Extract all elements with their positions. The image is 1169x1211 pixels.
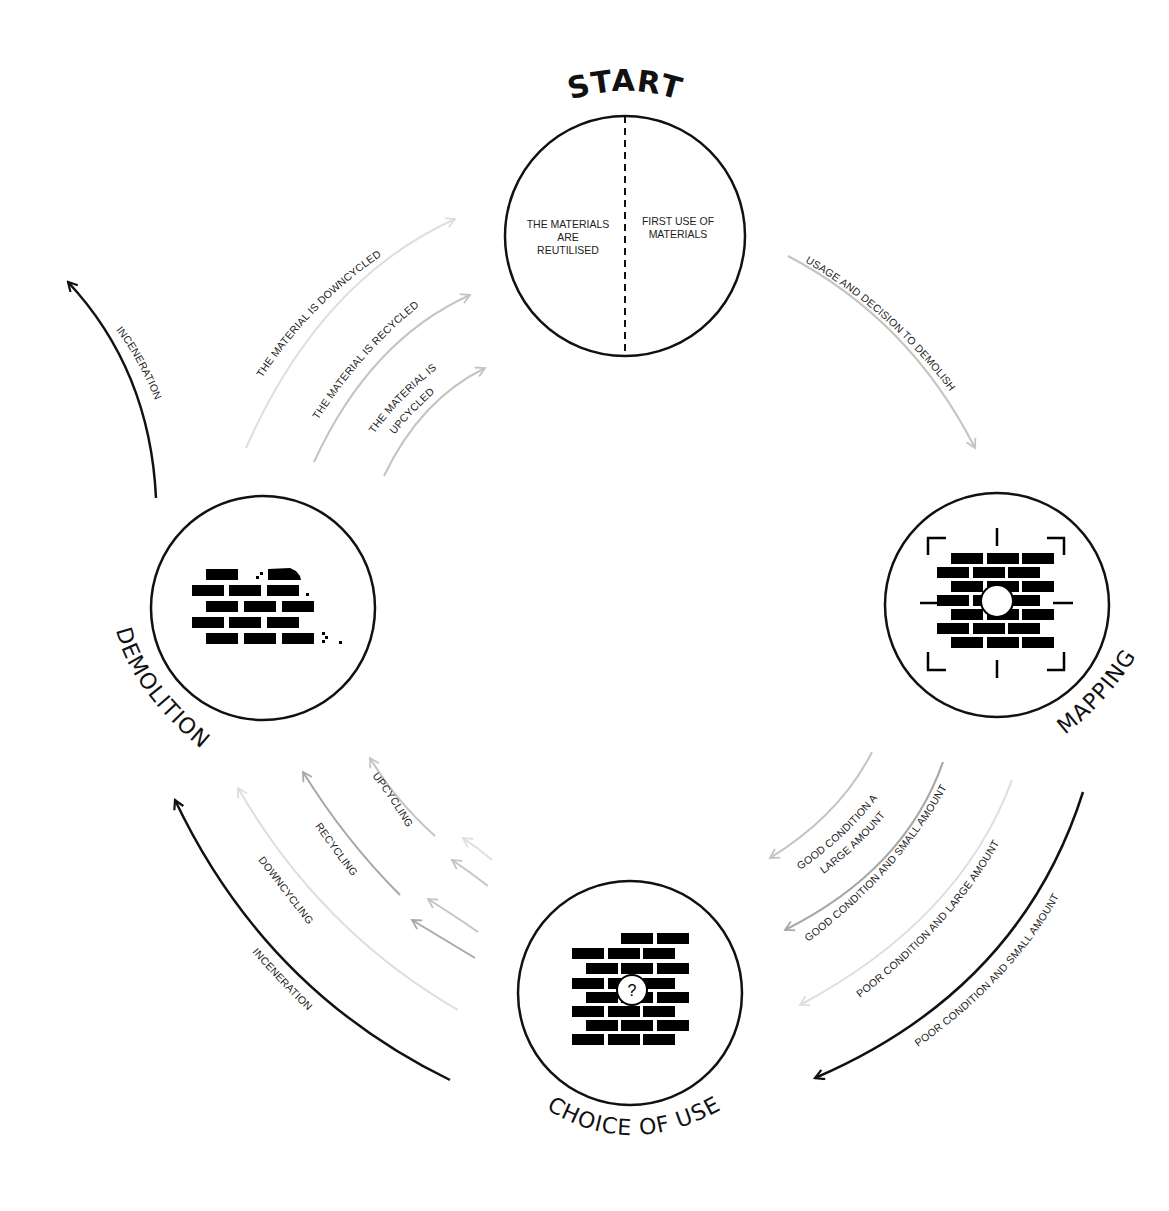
question-mark: ? — [628, 982, 637, 999]
start-node: START THE MATERIALS ARE REUTILISED FIRST… — [505, 63, 745, 356]
choice-of-use-node: ? CHOICE OF USE — [518, 881, 742, 1140]
demolition-to-start-arrows: THE MATERIAL IS DOWNCYCLED THE MATERIAL … — [246, 219, 485, 476]
start-left-line-1: THE MATERIALS — [527, 218, 610, 230]
recycling-label: RECYCLING — [313, 820, 360, 878]
demolition-node: DEMOLITION — [111, 496, 375, 753]
poor-small-label: POOR CONDITION AND SMALL AMOUNT — [912, 891, 1061, 1049]
start-left-line-2: ARE — [557, 231, 579, 243]
incineration-bottom-label: INCENERATION — [251, 945, 316, 1012]
demolition-incineration-arrow: INCENERATION — [68, 282, 165, 498]
mapping-node: MAPPING — [885, 493, 1141, 739]
start-right-line-2: MATERIALS — [649, 228, 708, 240]
start-label: START — [564, 63, 687, 107]
start-left-line-3: REUTILISED — [537, 244, 599, 256]
usage-arrow: USAGE AND DECISION TO DEMOLISH — [788, 253, 975, 448]
poor-large-label: POOR CONDITION AND LARGE AMOUNT — [854, 837, 1001, 999]
good-large-label-1: GOOD CONDITION AND — [0, 0, 879, 872]
start-right-line-1: FIRST USE OF — [642, 215, 714, 227]
material-cycle-diagram: START THE MATERIALS ARE REUTILISED FIRST… — [0, 0, 1169, 1211]
brick-wall-question-icon: ? — [572, 933, 689, 1045]
downcycling-label: DOWNCYCLING — [256, 854, 316, 926]
choice-to-demolition-arrows: UPCYCLING RECYCLING DOWNCYCLING INCENERA… — [175, 758, 492, 1080]
svg-text:USAGE AND DECISION TO DEMOLISH: USAGE AND DECISION TO DEMOLISH — [804, 253, 958, 393]
upcycling-label: UPCYCLING — [370, 770, 415, 829]
